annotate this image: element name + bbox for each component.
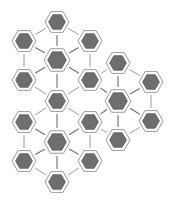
network-edge xyxy=(36,129,45,134)
satellite-node[interactable] xyxy=(12,31,36,52)
satellite-node[interactable] xyxy=(78,31,102,52)
satellite-node[interactable] xyxy=(78,112,102,133)
hexagon-inner-fill xyxy=(82,73,99,88)
satellite-node[interactable] xyxy=(45,91,69,112)
node-layer xyxy=(12,12,163,193)
hub-node[interactable] xyxy=(44,131,70,154)
network-edge xyxy=(101,110,107,114)
satellite-node[interactable] xyxy=(139,72,163,93)
network-edge xyxy=(70,149,79,154)
hexagon-inner-fill xyxy=(82,154,99,169)
satellite-node[interactable] xyxy=(78,151,102,172)
hexagon-inner-fill xyxy=(49,94,66,109)
hexagon-inner-fill xyxy=(49,175,66,190)
network-edge xyxy=(69,129,78,134)
satellite-node[interactable] xyxy=(139,111,163,132)
hexagon-inner-fill xyxy=(82,115,99,130)
network-edge xyxy=(35,87,45,94)
hub-node[interactable] xyxy=(44,49,70,72)
network-edge xyxy=(102,70,107,73)
satellite-node[interactable] xyxy=(12,112,36,133)
network-edge xyxy=(36,68,45,73)
network-edge xyxy=(70,48,79,53)
network-edge xyxy=(101,88,107,92)
satellite-node[interactable] xyxy=(45,172,69,193)
hexagon-inner-fill xyxy=(110,56,127,71)
hexagon-inner-fill xyxy=(110,133,127,148)
network-edge xyxy=(130,128,140,134)
satellite-node[interactable] xyxy=(106,130,130,151)
network-edge xyxy=(69,68,78,73)
hexagon-inner-fill xyxy=(16,115,33,130)
network-edge xyxy=(68,87,78,94)
hub-node[interactable] xyxy=(105,90,131,113)
satellite-node[interactable] xyxy=(12,70,36,91)
hexagon-inner-fill xyxy=(49,15,66,30)
network-edge xyxy=(69,29,79,35)
satellite-node[interactable] xyxy=(12,151,36,172)
network-edge xyxy=(68,168,78,175)
satellite-node[interactable] xyxy=(78,70,102,91)
network-edge xyxy=(101,129,106,132)
satellite-node[interactable] xyxy=(106,53,130,74)
hexagon-inner-fill xyxy=(16,154,33,169)
network-edge xyxy=(130,70,140,76)
network-diagram-canvas xyxy=(0,0,175,202)
hexagon-network-figure xyxy=(0,0,175,202)
network-edge xyxy=(36,29,46,35)
hexagon-inner-fill xyxy=(82,34,99,49)
hexagon-inner-fill xyxy=(143,75,160,90)
hexagon-inner-fill xyxy=(16,73,33,88)
network-edge xyxy=(130,109,139,114)
network-edge xyxy=(36,48,45,53)
network-edge xyxy=(36,149,45,154)
network-edge xyxy=(35,108,45,115)
satellite-node[interactable] xyxy=(45,12,69,33)
network-edge xyxy=(35,168,45,175)
hexagon-inner-fill xyxy=(16,34,33,49)
hexagon-inner-fill xyxy=(143,114,160,129)
network-edge xyxy=(68,108,78,115)
network-edge xyxy=(131,89,140,94)
